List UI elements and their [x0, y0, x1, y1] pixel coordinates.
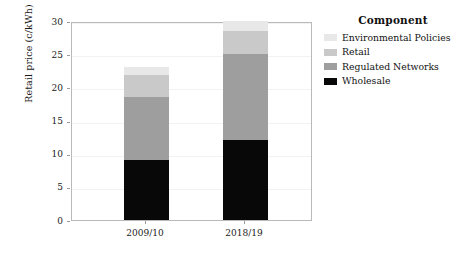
y-axis-tick-mark	[67, 155, 70, 156]
y-axis-tick-label: 25	[29, 51, 63, 60]
legend-item-label: Retail	[342, 47, 370, 56]
x-axis-tick-label: 2009/10	[100, 228, 190, 238]
y-axis-tick-label: 30	[29, 18, 63, 27]
legend-swatch-icon	[324, 63, 337, 70]
bar-2018-19	[223, 21, 268, 220]
legend-item-label: Regulated Networks	[342, 62, 439, 71]
x-axis-tick-mark	[145, 221, 146, 224]
legend-item[interactable]: Wholesale	[324, 75, 462, 88]
y-axis-tick-mark	[67, 122, 70, 123]
legend-swatch-icon	[324, 34, 337, 41]
legend-items: Environmental PoliciesRetailRegulated Ne…	[324, 31, 462, 88]
y-axis-tick-mark	[67, 88, 70, 89]
legend-item[interactable]: Environmental Policies	[324, 31, 462, 44]
legend-item-label: Environmental Policies	[342, 33, 450, 42]
y-axis-tick-label: 20	[29, 84, 63, 93]
legend-title: Component	[324, 14, 462, 26]
stacked-bar-chart: Retail price (c/kWh) 051015202530 2009/1…	[0, 0, 472, 253]
bar-segment-regulated-networks	[223, 54, 268, 140]
legend-swatch-icon	[324, 49, 337, 56]
y-axis-tick-mark	[67, 188, 70, 189]
x-axis-tick-label: 2018/19	[199, 228, 289, 238]
legend-item-label: Wholesale	[342, 76, 390, 85]
y-axis-tick-mark	[67, 22, 70, 23]
bar-2009-10	[124, 67, 169, 220]
y-axis-tick-label: 10	[29, 150, 63, 159]
gridline	[72, 56, 311, 57]
bar-segment-regulated-networks	[124, 97, 169, 160]
y-axis-tick-label: 15	[29, 117, 63, 126]
legend-item[interactable]: Retail	[324, 46, 462, 59]
gridline	[72, 156, 311, 157]
bar-segment-wholesale	[124, 160, 169, 220]
gridline	[72, 89, 311, 90]
x-axis-tick-mark	[244, 221, 245, 224]
y-axis-tick-label: 5	[29, 183, 63, 192]
bar-segment-environmental-policies	[124, 67, 169, 75]
y-axis-tick-mark	[67, 221, 70, 222]
legend-swatch-icon	[324, 78, 337, 85]
gridline	[72, 123, 311, 124]
bar-segment-wholesale	[223, 140, 268, 220]
y-axis-tick-mark	[67, 55, 70, 56]
plot-area	[71, 22, 312, 221]
gridline	[72, 189, 311, 190]
bar-segment-environmental-policies	[223, 21, 268, 31]
gridline	[72, 23, 311, 24]
bar-segment-retail	[124, 75, 169, 97]
legend-item[interactable]: Regulated Networks	[324, 60, 462, 73]
bar-segment-retail	[223, 31, 268, 54]
legend: Component Environmental PoliciesRetailRe…	[320, 8, 466, 95]
y-axis-tick-label: 0	[29, 217, 63, 226]
